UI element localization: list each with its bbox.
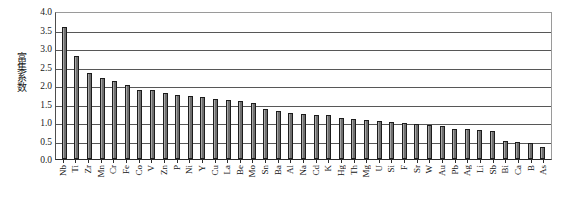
x-tick-label: Cu — [211, 165, 220, 176]
bar-slot — [108, 13, 121, 159]
y-tick-label: 1.5 — [40, 100, 52, 109]
bar — [339, 118, 344, 159]
y-tick-label: 2.0 — [40, 82, 52, 91]
y-tick-label: 1.0 — [40, 119, 52, 128]
x-tick-slot: P — [171, 160, 184, 203]
x-tick-label: Zr — [84, 165, 93, 174]
bar — [100, 78, 105, 159]
bar — [477, 130, 482, 159]
bar-series — [56, 13, 551, 159]
bar-slot — [134, 13, 147, 159]
x-tick-mark — [391, 160, 392, 163]
bar-slot — [335, 13, 348, 159]
x-tick-slot: Cd — [310, 160, 323, 203]
x-tick-label: Li — [476, 165, 485, 173]
x-tick-mark — [101, 160, 102, 163]
bar — [288, 113, 293, 159]
x-tick-label: Ca — [514, 165, 523, 175]
x-tick-mark — [442, 160, 443, 163]
x-tick-label: Ti — [71, 165, 80, 173]
x-tick-slot: Th — [348, 160, 361, 203]
bar-slot — [247, 13, 260, 159]
bar — [326, 115, 331, 159]
bar — [251, 103, 256, 159]
x-tick-slot: Ti — [70, 160, 83, 203]
bar-slot — [83, 13, 96, 159]
bar-slot — [322, 13, 335, 159]
x-tick-mark — [455, 160, 456, 163]
x-tick-label: As — [539, 165, 548, 175]
bar — [414, 124, 419, 159]
bar — [351, 119, 356, 159]
y-axis-title: 富集系数 — [10, 52, 26, 92]
bar-slot — [461, 13, 474, 159]
x-tick-label: Ni — [185, 165, 194, 174]
x-tick-label: Bi — [501, 165, 510, 174]
bar-slot — [58, 13, 71, 159]
bar — [427, 125, 432, 159]
bar — [163, 93, 168, 159]
x-tick-slot: Li — [474, 160, 487, 203]
y-tick-label: 3.5 — [40, 26, 52, 35]
bar — [528, 143, 533, 159]
bar-slot — [234, 13, 247, 159]
y-tick-label: 0.5 — [40, 137, 52, 146]
bar-slot — [146, 13, 159, 159]
x-tick-mark — [505, 160, 506, 163]
bar — [188, 96, 193, 159]
bar — [402, 123, 407, 159]
x-tick-mark — [531, 160, 532, 163]
x-tick-slot: Na — [297, 160, 310, 203]
x-tick-label: Mn — [97, 165, 106, 178]
bar — [87, 73, 92, 159]
x-tick-mark — [88, 160, 89, 163]
x-tick-mark — [316, 160, 317, 163]
bar-slot — [197, 13, 210, 159]
bar — [490, 131, 495, 159]
x-tick-slot: W — [424, 160, 437, 203]
x-tick-label: Cd — [312, 165, 321, 176]
bar-slot — [121, 13, 134, 159]
x-tick-label: B — [527, 165, 536, 171]
x-tick-mark — [366, 160, 367, 163]
x-tick-slot: Cr — [108, 160, 121, 203]
bar — [125, 85, 130, 159]
bar-slot — [423, 13, 436, 159]
x-tick-mark — [303, 160, 304, 163]
x-tick-slot: Cu — [209, 160, 222, 203]
y-tick-label: 2.5 — [40, 63, 52, 72]
bar-slot — [285, 13, 298, 159]
x-tick-mark — [265, 160, 266, 163]
bar — [377, 121, 382, 159]
x-tick-slot: La — [221, 160, 234, 203]
x-tick-slot: K — [322, 160, 335, 203]
x-tick-slot: Ni — [183, 160, 196, 203]
x-tick-label: Au — [438, 165, 447, 176]
x-tick-slot: Be — [234, 160, 247, 203]
x-tick-mark — [126, 160, 127, 163]
x-tick-mark — [493, 160, 494, 163]
x-tick-mark — [240, 160, 241, 163]
x-tick-mark — [417, 160, 418, 163]
bar-slot — [171, 13, 184, 159]
x-tick-mark — [139, 160, 140, 163]
x-tick-label: Ag — [463, 165, 472, 176]
x-tick-slot: Mg — [360, 160, 373, 203]
bar-slot — [310, 13, 323, 159]
x-axis-tick-labels: NbTiZrMnCrFeCoVZnPNiYCuLaBeMoSnBaAlNaCdK… — [55, 160, 552, 203]
x-tick-label: U — [375, 165, 384, 172]
x-tick-label: V — [147, 165, 156, 172]
x-tick-mark — [328, 160, 329, 163]
x-tick-mark — [227, 160, 228, 163]
x-tick-slot: Ca — [512, 160, 525, 203]
bar — [150, 90, 155, 159]
x-tick-mark — [151, 160, 152, 163]
x-tick-label: Si — [387, 165, 396, 173]
bar — [263, 109, 268, 159]
x-tick-label: Zn — [160, 165, 169, 175]
x-tick-label: Fe — [122, 165, 131, 174]
bar — [314, 115, 319, 159]
bar-slot — [524, 13, 537, 159]
bar-slot — [511, 13, 524, 159]
x-tick-label: Th — [350, 165, 359, 175]
